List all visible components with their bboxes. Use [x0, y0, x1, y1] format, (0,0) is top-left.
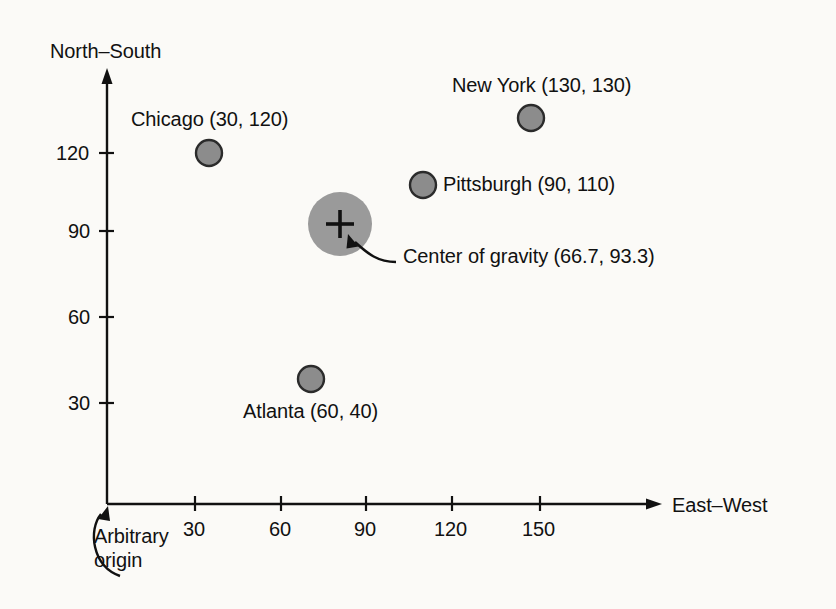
y-axis — [102, 68, 113, 504]
y-tick-label-90: 90 — [68, 220, 90, 243]
x-tick-label-90: 90 — [354, 518, 376, 541]
y-tick-label-30: 30 — [68, 392, 90, 415]
y-tick-label-60: 60 — [68, 306, 90, 329]
scatter-plot-svg — [0, 0, 836, 609]
marker-atlanta — [298, 366, 324, 392]
point-label-pittsburgh: Pittsburgh (90, 110) — [443, 173, 615, 196]
x-tick-label-30: 30 — [183, 518, 205, 541]
marker-chicago — [196, 140, 222, 166]
point-label-chicago: Chicago (30, 120) — [131, 108, 288, 131]
x-axis — [107, 499, 662, 510]
point-label-new-york: New York (130, 130) — [452, 74, 631, 97]
point-label-center-of-gravity: Center of gravity (66.7, 93.3) — [403, 245, 655, 268]
marker-new-york — [518, 105, 544, 131]
annotation-arbitrary-origin-line1: Arbitrary — [94, 524, 169, 548]
x-axis-title: East–West — [672, 494, 767, 517]
marker-pittsburgh — [410, 172, 436, 198]
point-label-atlanta: Atlanta (60, 40) — [243, 400, 378, 423]
y-tick-label-120: 120 — [56, 142, 89, 165]
annotation-arbitrary-origin-line2: origin — [94, 548, 142, 572]
x-tick-label-150: 150 — [522, 518, 555, 541]
y-axis-title: North–South — [50, 40, 161, 63]
x-tick-label-120: 120 — [434, 518, 467, 541]
x-tick-label-60: 60 — [269, 518, 291, 541]
figure-canvas: North–South East–West 120 90 60 30 30 60… — [0, 0, 836, 609]
